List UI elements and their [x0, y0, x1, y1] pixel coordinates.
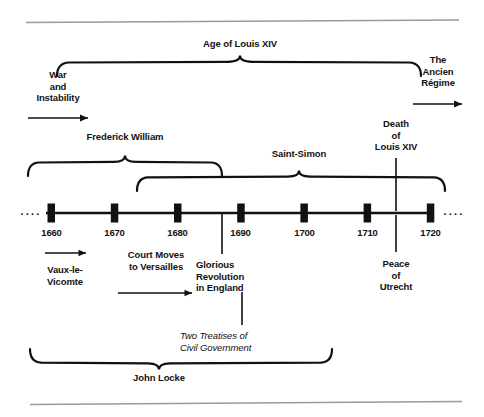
event-line-3: in England [196, 282, 274, 294]
arrow-war-and-instability [28, 115, 88, 122]
tick-1710 [364, 204, 372, 223]
axis-ellipsis-left: .... [16, 205, 46, 217]
span-label-saint-simon: Saint-Simon [254, 148, 344, 160]
span-label-age-of-louis-xiv: Age of Louis XIV [180, 38, 300, 50]
tick-1670 [111, 204, 119, 223]
event-line-1: Death [355, 118, 437, 130]
bottom-rule [30, 402, 462, 405]
event-line-2: Revolution [196, 271, 274, 283]
axis-ellipsis-right: .... [437, 205, 471, 217]
event-line-3: Louis XIV [355, 141, 437, 153]
tick-1720 [427, 204, 435, 223]
year-label-1660: 1660 [28, 227, 75, 238]
year-label-1720: 1720 [407, 227, 454, 238]
year-label-1700: 1700 [281, 227, 328, 238]
bracket-age-of-louis-xiv [57, 56, 421, 77]
year-label-1710: 1710 [344, 227, 391, 238]
top-rule [26, 20, 459, 23]
arrow-ancien-regime [413, 101, 462, 108]
bracket-saint-simon [137, 171, 445, 192]
timeline-figure: .... .... Age of Louis XIV Frederick Wil… [0, 0, 484, 417]
note-line-3: Instability [12, 92, 104, 104]
event-vaux-le-vicomte: Vaux-le- Vicomte [25, 264, 105, 287]
note-line-2: Ancien [404, 66, 472, 78]
year-label-1680: 1680 [154, 227, 201, 238]
event-line-1: Two Treatises of [180, 330, 304, 342]
note-line-3: Régime [404, 77, 472, 89]
event-line-2: to Versailles [108, 261, 204, 273]
note-ancien-regime: The Ancien Régime [404, 54, 472, 89]
tick-1690 [237, 204, 245, 223]
event-death-of-louis-xiv: Death of Louis XIV [355, 118, 437, 153]
note-line-2: and [12, 81, 104, 93]
event-line-2: Civil Government [180, 342, 304, 354]
span-label-john-locke: John Locke [119, 372, 199, 384]
event-two-treatises: Two Treatises of Civil Government [180, 330, 304, 353]
note-war-and-instability: War and Instability [12, 69, 104, 104]
year-label-1670: 1670 [91, 227, 138, 238]
event-glorious-revolution: Glorious Revolution in England [196, 259, 274, 294]
event-line-1: Vaux-le- [25, 264, 105, 276]
event-line-1: Court Moves [108, 249, 204, 261]
note-line-1: The [404, 54, 472, 66]
span-label-frederick-william: Frederick William [65, 131, 185, 143]
event-line-1: Peace [357, 258, 435, 270]
event-line-1: Glorious [196, 259, 274, 271]
event-line-2: Vicomte [25, 276, 105, 288]
bracket-frederick-william [28, 156, 222, 177]
arrow-vaux-le-vicomte [45, 250, 86, 256]
event-line-3: Utrecht [357, 281, 435, 293]
event-court-moves-to-versailles: Court Moves to Versailles [108, 249, 204, 272]
tick-1660 [48, 204, 56, 223]
event-line-2: of [357, 270, 435, 282]
event-line-2: of [355, 130, 437, 142]
note-line-1: War [12, 69, 104, 81]
tick-1700 [300, 204, 308, 223]
arrow-court-moves-to-versailles [118, 290, 192, 296]
year-label-1690: 1690 [217, 227, 264, 238]
event-peace-of-utrecht: Peace of Utrecht [357, 258, 435, 293]
tick-1680 [174, 204, 182, 223]
